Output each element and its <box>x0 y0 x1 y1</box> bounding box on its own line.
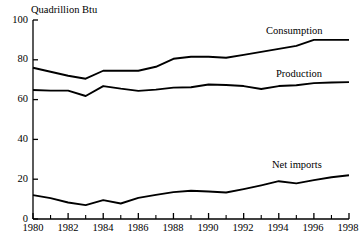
series-line-net-imports <box>33 175 349 205</box>
axis-lines <box>33 20 349 219</box>
y-axis-ticks <box>33 20 38 219</box>
series-line-consumption <box>33 40 349 79</box>
series-line-production <box>33 82 349 96</box>
